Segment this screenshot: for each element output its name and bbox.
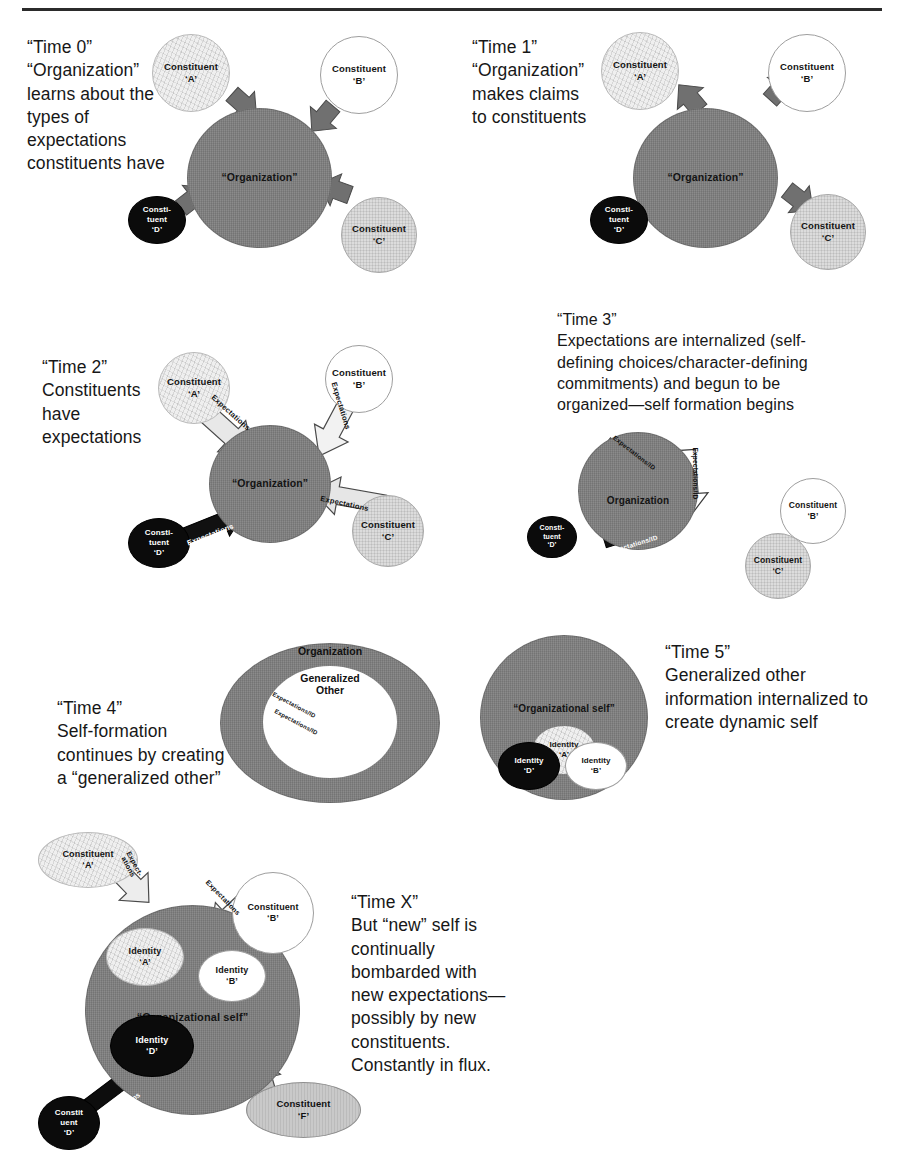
- timeX-caption: “Time X” But “new” self is continually b…: [351, 891, 551, 1077]
- node-line-1: Consti-: [605, 205, 633, 215]
- node-line-1: Constituent: [789, 500, 837, 511]
- time5-self-label: “Organizational self”: [513, 703, 615, 716]
- time0-constituent-a: Constituent ‘A’: [152, 34, 230, 112]
- timeX-constituent-f: Constituent ‘F’: [246, 1082, 361, 1138]
- node-line-1: Constituent: [247, 902, 298, 913]
- node-line-1: Constituent: [167, 376, 221, 388]
- node-line-1: Constituent: [780, 61, 834, 73]
- timeX-identity-b: Identity ‘B’: [198, 950, 266, 1002]
- time3-caption: “Time 3” Expectations are internalized (…: [557, 309, 887, 415]
- node-line-3: ‘D’: [152, 225, 163, 235]
- timeX-constituent-d: Constit uent ‘D’: [38, 1096, 100, 1150]
- node-line-2: ‘A’: [82, 860, 93, 871]
- node-line-2: ‘C’: [772, 566, 783, 577]
- node-line-2: tuent: [543, 533, 561, 542]
- node-line-1: Constituent: [754, 555, 802, 566]
- time4-generalized-other-label-1: Generalized: [263, 672, 397, 684]
- node-line-3: ‘D’: [547, 541, 556, 550]
- node-line-3: ‘D’: [154, 548, 165, 558]
- time1-constituent-c: Constituent ‘C’: [790, 194, 866, 270]
- node-line-2: ‘A’: [139, 957, 150, 968]
- node-line-1: Constituent: [62, 849, 113, 860]
- node-line-2: ‘A’: [188, 388, 200, 400]
- node-line-1: Constit: [55, 1108, 83, 1118]
- node-line-1: Consti-: [143, 205, 171, 215]
- node-line-1: Identity: [129, 946, 162, 957]
- time3-constituent-d: Consti- tuent ‘D’: [527, 516, 577, 558]
- time5-caption: “Time 5” Generalized other information i…: [665, 641, 901, 734]
- time4-organization-label: Organization: [220, 645, 440, 657]
- time4-generalized-other-label-2: Other: [263, 684, 397, 696]
- node-line-1: Consti-: [540, 524, 565, 533]
- time1-constituent-b: Constituent ‘B’: [768, 34, 846, 112]
- node-line-2: ‘D’: [146, 1046, 158, 1057]
- node-line-3: ‘D’: [64, 1128, 75, 1138]
- time0-organization-label: “Organization”: [221, 171, 297, 184]
- time3-organization-label: Organization: [607, 495, 669, 508]
- node-line-2: tuent: [149, 538, 169, 548]
- node-line-2: ‘C’: [373, 235, 385, 247]
- time1-organization: “Organization”: [633, 108, 778, 248]
- node-line-1: Constituent: [801, 220, 855, 232]
- time3-constituent-b: Constituent ‘B’: [780, 478, 846, 544]
- node-line-1: Constituent: [164, 61, 218, 73]
- node-line-2: ‘B’: [267, 913, 279, 924]
- timeX-constituent-b: Constituent ‘B’: [232, 872, 314, 954]
- figure-page: “Time 0” “Organization” learns about the…: [0, 0, 901, 1161]
- node-line-2: ‘B’: [801, 73, 813, 85]
- top-horizontal-rule: [22, 8, 882, 11]
- time1-organization-label: “Organization”: [667, 171, 743, 184]
- time2-constituent-a: Constituent ‘A’: [158, 352, 230, 424]
- timeX-identity-d: Identity ‘D’: [110, 1015, 194, 1077]
- time1-constituent-a: Constituent ‘A’: [601, 32, 679, 110]
- node-line-2: ‘F’: [298, 1110, 309, 1122]
- time1-constituent-d: Consti- tuent ‘D’: [590, 196, 648, 244]
- time5-identity-b: Identity ‘B’: [565, 742, 627, 790]
- node-line-1: Constituent: [277, 1098, 331, 1110]
- node-line-1: Identity: [581, 756, 610, 766]
- timeX-arrow-label-d: Expectations: [100, 1091, 141, 1125]
- node-line-2: ‘C’: [382, 531, 394, 543]
- time3-arrow-label-2: Expectations/ID: [691, 448, 698, 500]
- timeX-identity-a: Identity ‘A’: [106, 928, 184, 986]
- node-line-2: ‘C’: [822, 232, 834, 244]
- time3-constituent-c: Constituent ‘C’: [745, 533, 811, 599]
- time2-organization-label: “Organization”: [232, 477, 308, 490]
- time0-organization: “Organization”: [187, 108, 332, 248]
- node-line-1: Constituent: [352, 223, 406, 235]
- node-line-1: Identity: [136, 1035, 169, 1046]
- node-line-2: ‘D’: [524, 766, 535, 776]
- time5-identity-d: Identity ‘D’: [498, 742, 560, 790]
- time2-arrow-label-c: Expectations: [320, 495, 370, 513]
- node-line-2: tuent: [609, 215, 629, 225]
- node-line-2: ‘A’: [185, 73, 197, 85]
- node-line-1: Constituent: [332, 63, 386, 75]
- node-line-1: Constituent: [613, 59, 667, 71]
- time0-constituent-c: Constituent ‘C’: [341, 197, 417, 273]
- node-line-2: ‘B’: [353, 379, 365, 391]
- node-line-3: ‘D’: [614, 225, 625, 235]
- node-line-2: tuent: [147, 215, 167, 225]
- time2-arrow-label-d: Expectations: [186, 522, 235, 547]
- time0-constituent-d: Consti- tuent ‘D’: [128, 196, 186, 244]
- time3-organization: Organization: [578, 432, 698, 550]
- node-line-2: ‘B’: [353, 75, 365, 87]
- time0-constituent-b: Constituent ‘B’: [320, 36, 398, 114]
- node-line-1: Constituent: [361, 519, 415, 531]
- node-line-2: ‘B’: [226, 976, 238, 987]
- node-line-2: ‘B’: [807, 511, 818, 522]
- node-line-1: Identity: [216, 965, 249, 976]
- time2-constituent-d: Consti- tuent ‘D’: [128, 518, 190, 568]
- node-line-2: ‘B’: [591, 766, 602, 776]
- node-line-1: Consti-: [145, 528, 173, 538]
- node-line-2: uent: [60, 1118, 77, 1128]
- node-line-2: ‘A’: [634, 71, 646, 83]
- node-line-1: Identity: [514, 756, 543, 766]
- node-line-1: Constituent: [332, 367, 386, 379]
